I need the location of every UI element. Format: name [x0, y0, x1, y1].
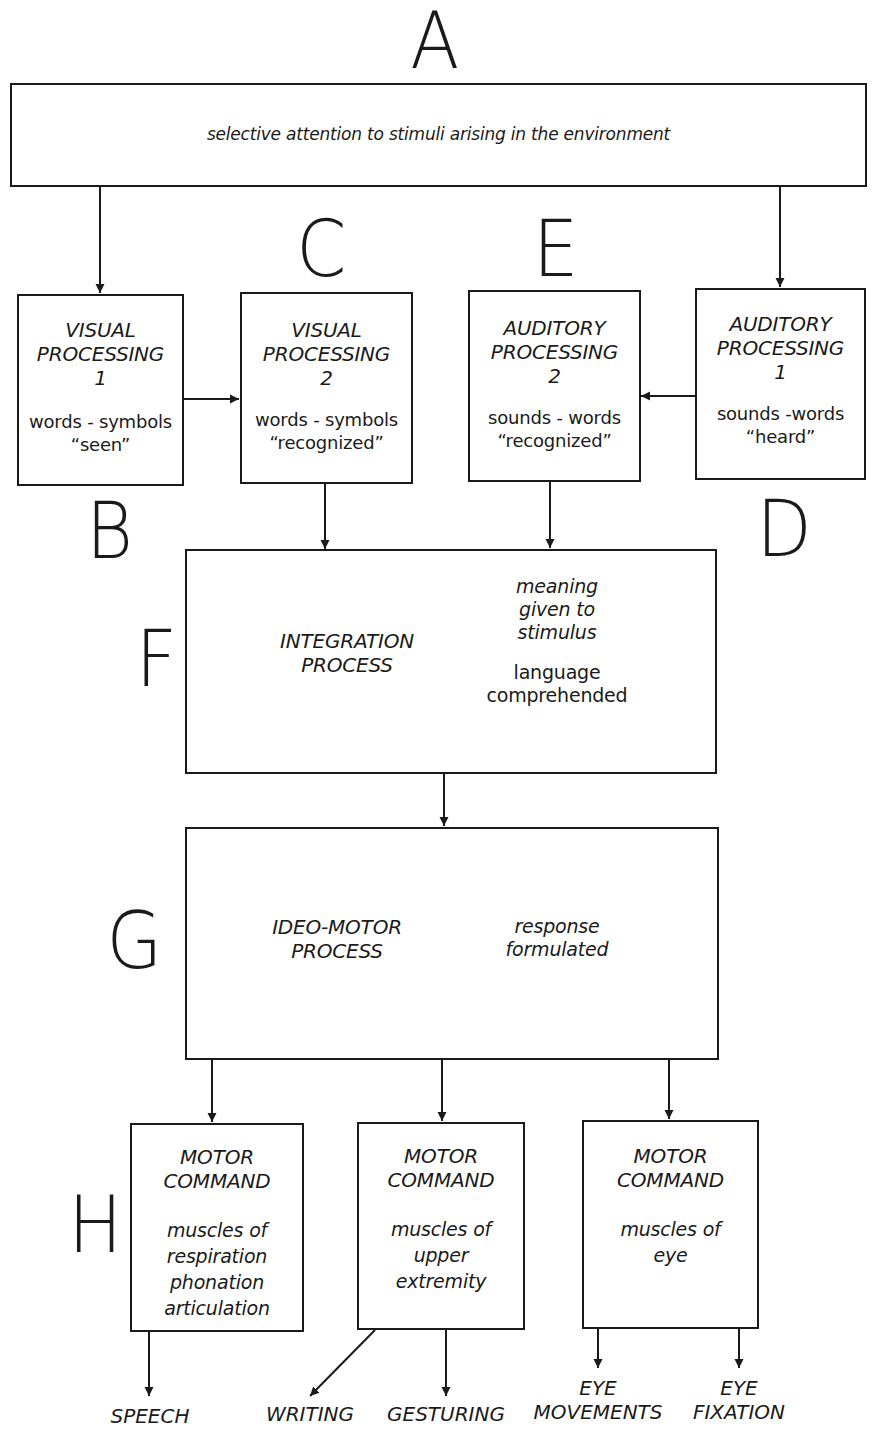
visual-1-title: VISUAL PROCESSING 1 — [19, 318, 182, 390]
output-gesturing: GESTURING — [378, 1402, 514, 1426]
label-e: E — [533, 210, 578, 288]
box-auditory-processing-2: AUDITORY PROCESSING 2 sounds - words “re… — [468, 290, 641, 482]
integration-language: language comprehended — [477, 661, 637, 707]
ideo-motor-desc: response formulated — [477, 915, 637, 961]
motor2-desc: muscles of upper extremity — [359, 1216, 523, 1294]
motor1-desc: muscles of respiration phonation articul… — [132, 1217, 302, 1321]
visual-2-title: VISUAL PROCESSING 2 — [242, 318, 411, 390]
box-visual-processing-2: VISUAL PROCESSING 2 words - symbols “rec… — [240, 292, 413, 484]
motor2-title: MOTOR COMMAND — [359, 1144, 523, 1192]
label-d: D — [756, 490, 811, 568]
arrow-motor2-to-writing — [310, 1330, 375, 1396]
ideo-motor-title: IDEO-MOTOR PROCESS — [237, 915, 437, 963]
label-h: H — [68, 1186, 122, 1264]
box-auditory-processing-1: AUDITORY PROCESSING 1 sounds -words “hea… — [695, 288, 866, 480]
visual-1-desc: words - symbols “seen” — [19, 410, 182, 456]
integration-meaning: meaning given to stimulus — [477, 575, 637, 644]
box-integration-process: INTEGRATION PROCESS meaning given to sti… — [185, 549, 717, 774]
label-g: G — [106, 902, 162, 980]
box-selective-attention: selective attention to stimuli arising i… — [10, 83, 867, 187]
auditory-2-title: AUDITORY PROCESSING 2 — [470, 316, 639, 388]
label-c: C — [296, 210, 346, 288]
auditory-2-desc: sounds - words “recognized” — [470, 406, 639, 452]
visual-2-desc: words - symbols “recognized” — [242, 408, 411, 454]
motor3-desc: muscles of eye — [584, 1216, 757, 1268]
label-f: F — [136, 620, 177, 698]
output-eye-movements: EYE MOVEMENTS — [527, 1376, 669, 1424]
auditory-1-title: AUDITORY PROCESSING 1 — [697, 312, 864, 384]
auditory-1-desc: sounds -words “heard” — [697, 402, 864, 448]
output-speech: SPEECH — [95, 1404, 205, 1428]
label-b: B — [86, 492, 133, 570]
box-motor-command-eye: MOTOR COMMAND muscles of eye — [582, 1120, 759, 1329]
selective-attention-text: selective attention to stimuli arising i… — [12, 123, 865, 146]
label-a: A — [410, 2, 459, 80]
motor3-title: MOTOR COMMAND — [584, 1144, 757, 1192]
box-visual-processing-1: VISUAL PROCESSING 1 words - symbols “see… — [17, 294, 184, 486]
output-writing: WRITING — [255, 1402, 365, 1426]
output-eye-fixation: EYE FIXATION — [683, 1376, 795, 1424]
box-motor-command-upper-extremity: MOTOR COMMAND muscles of upper extremity — [357, 1122, 525, 1330]
box-ideo-motor-process: IDEO-MOTOR PROCESS response formulated — [185, 827, 719, 1060]
integration-title: INTEGRATION PROCESS — [247, 629, 447, 677]
motor1-title: MOTOR COMMAND — [132, 1145, 302, 1193]
box-motor-command-speech: MOTOR COMMAND muscles of respiration pho… — [130, 1123, 304, 1332]
